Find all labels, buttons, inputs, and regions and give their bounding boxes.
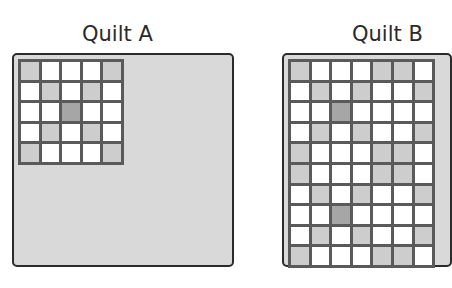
light-square [415,124,433,142]
white-square [415,165,433,183]
white-square [373,186,391,204]
quilt-b [282,53,452,267]
white-square [312,103,330,121]
dark-square [332,103,350,121]
white-square [415,144,433,162]
light-square [415,227,433,245]
white-square [373,227,391,245]
white-square [353,165,371,183]
quilt-a-block-grid [18,59,124,165]
light-square [312,227,330,245]
light-square [312,124,330,142]
white-square [394,206,412,224]
white-square [291,186,309,204]
light-square [394,144,412,162]
white-square [291,206,309,224]
white-square [312,144,330,162]
white-square [83,62,101,80]
light-square [291,165,309,183]
white-square [353,144,371,162]
white-square [332,83,350,101]
quilt-a-title: Quilt A [82,22,153,46]
white-square [62,83,80,101]
white-square [373,103,391,121]
light-square [291,247,309,265]
white-square [332,227,350,245]
white-square [312,165,330,183]
light-square [415,186,433,204]
white-square [394,103,412,121]
white-square [394,227,412,245]
white-square [291,227,309,245]
white-square [353,62,371,80]
white-square [42,62,60,80]
white-square [415,247,433,265]
light-square [103,144,121,162]
light-square [21,144,39,162]
light-square [312,186,330,204]
light-square [42,83,60,101]
light-square [312,83,330,101]
light-square [291,62,309,80]
white-square [332,124,350,142]
light-square [353,124,371,142]
light-square [373,144,391,162]
dark-square [62,103,80,121]
white-square [21,124,39,142]
white-square [415,103,433,121]
light-square [353,83,371,101]
quilt-a [12,53,234,267]
white-square [415,206,433,224]
white-square [353,247,371,265]
light-square [83,83,101,101]
white-square [332,247,350,265]
white-square [332,165,350,183]
light-square [353,227,371,245]
white-square [415,62,433,80]
light-square [291,144,309,162]
white-square [353,206,371,224]
white-square [62,144,80,162]
light-square [373,62,391,80]
white-square [42,144,60,162]
white-square [312,62,330,80]
quilt-b-title: Quilt B [352,22,423,46]
light-square [83,124,101,142]
white-square [62,124,80,142]
white-square [83,103,101,121]
white-square [353,103,371,121]
white-square [312,206,330,224]
white-square [291,83,309,101]
white-square [291,103,309,121]
white-square [394,83,412,101]
light-square [353,186,371,204]
light-square [394,165,412,183]
light-square [103,62,121,80]
light-square [373,247,391,265]
quilt-b-block-grid [288,59,435,268]
light-square [394,62,412,80]
white-square [394,186,412,204]
white-square [103,103,121,121]
light-square [21,62,39,80]
white-square [332,62,350,80]
white-square [312,247,330,265]
light-square [394,247,412,265]
white-square [21,83,39,101]
light-square [415,83,433,101]
white-square [373,124,391,142]
white-square [332,186,350,204]
white-square [83,144,101,162]
white-square [42,103,60,121]
light-square [373,165,391,183]
white-square [394,124,412,142]
dark-square [332,206,350,224]
white-square [373,83,391,101]
white-square [103,83,121,101]
white-square [373,206,391,224]
white-square [332,144,350,162]
light-square [42,124,60,142]
white-square [21,103,39,121]
white-square [62,62,80,80]
white-square [291,124,309,142]
